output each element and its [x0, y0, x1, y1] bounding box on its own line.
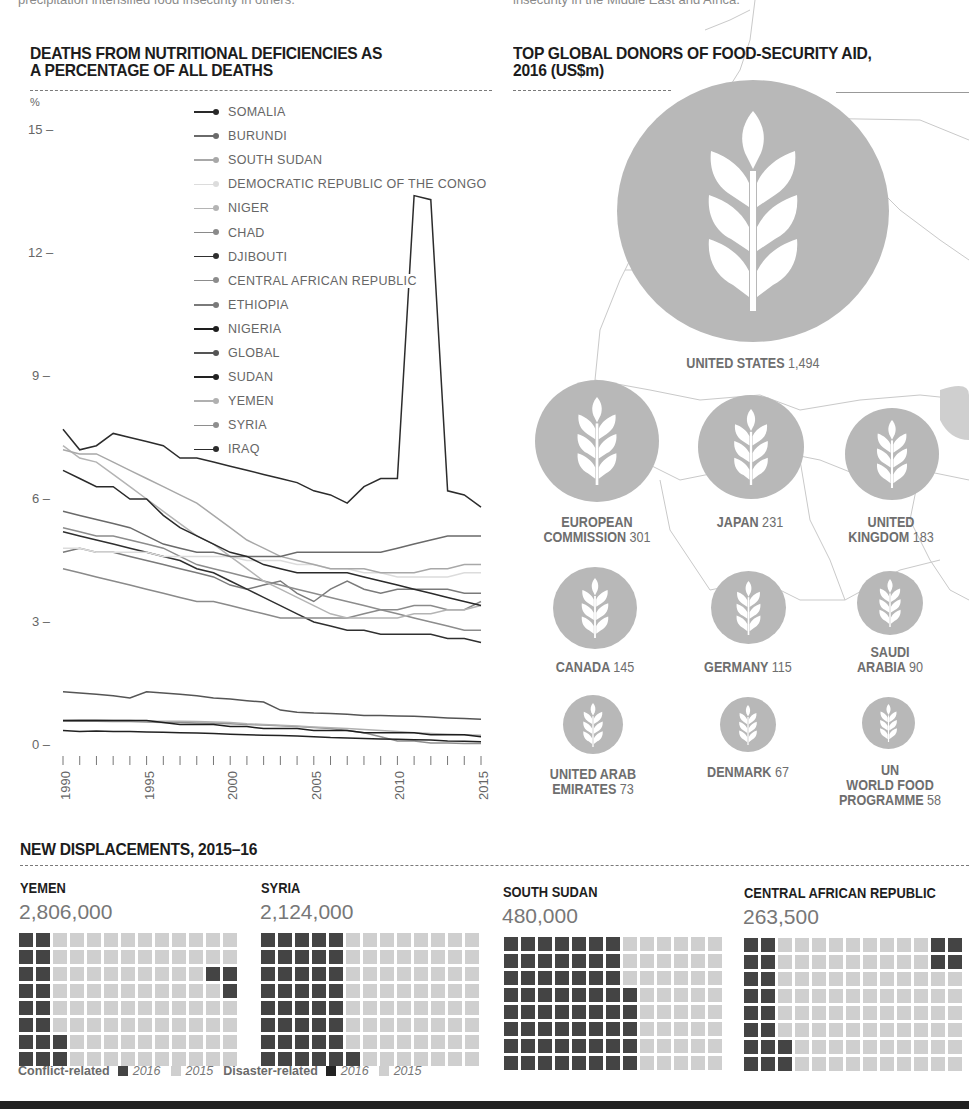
waffle-cell: [261, 950, 275, 964]
waffle-cell: [744, 972, 758, 986]
wheat-icon: [879, 704, 898, 742]
waffle-cell: [812, 938, 826, 952]
waffle-cell: [640, 954, 654, 968]
waffle-cell: [640, 1039, 654, 1053]
waffle-cell: [914, 972, 928, 986]
waffle-cell: [363, 967, 377, 981]
waffle-cell: [431, 1035, 445, 1049]
waffle-cell: [846, 989, 860, 1003]
displacement-country-syria: SYRIA: [261, 880, 300, 896]
waffle-cell: [121, 933, 135, 947]
series-line-niger: [63, 446, 481, 618]
legend-disaster-2016: 2016: [341, 1064, 369, 1078]
donor-label-canada: CANADA 145: [537, 660, 654, 675]
waffle-cell: [138, 984, 152, 998]
waffle-cell: [897, 989, 911, 1003]
wheat-icon: [738, 705, 758, 745]
waffle-cell: [931, 1057, 945, 1071]
legend-label: NIGERIA: [226, 322, 284, 336]
waffle-cell: [104, 933, 118, 947]
waffle-cell: [761, 972, 775, 986]
legend-swatch-2015-light: [171, 1066, 181, 1076]
waffle-cell: [640, 971, 654, 985]
waffle-cell: [53, 933, 67, 947]
waffle-cell: [948, 1057, 962, 1071]
waffle-cell: [380, 1001, 394, 1015]
legend-label: SOMALIA: [226, 105, 288, 119]
series-line-burundi: [63, 511, 481, 556]
waffle-cell: [795, 972, 809, 986]
waffle-cell: [914, 938, 928, 952]
waffle-cell: [674, 988, 688, 1002]
waffle-cell: [223, 967, 237, 981]
waffle-cell: [465, 1052, 479, 1066]
wheat-icon: [878, 579, 902, 627]
waffle-cell: [172, 984, 186, 998]
legend-label: CENTRAL AFRICAN REPUBLIC: [226, 274, 419, 288]
waffle-cell: [914, 989, 928, 1003]
waffle-cell: [121, 1001, 135, 1015]
waffle-cell: [846, 1023, 860, 1037]
waffle-cell: [606, 1039, 620, 1053]
waffle-cell: [172, 1018, 186, 1032]
waffle-cell: [538, 988, 552, 1002]
waffle-cell: [346, 984, 360, 998]
legend-item-central-african-republic: CENTRAL AFRICAN REPUBLIC: [194, 269, 488, 293]
waffle-cell: [19, 984, 33, 998]
legend-swatch-2015-grey: [379, 1066, 389, 1076]
legend-disaster-2015: 2015: [394, 1064, 422, 1078]
waffle-cell: [863, 972, 877, 986]
waffle-cell: [121, 1018, 135, 1032]
waffle-cell: [36, 1001, 50, 1015]
waffle-cell: [465, 1035, 479, 1049]
waffle-cell: [708, 1039, 722, 1053]
chart-legend: SOMALIABURUNDISOUTH SUDANDEMOCRATIC REPU…: [194, 100, 488, 461]
waffle-cell: [538, 971, 552, 985]
waffle-cell: [606, 988, 620, 1002]
waffle-cell: [278, 950, 292, 964]
waffle-cell: [465, 984, 479, 998]
series-line-djibouti: [63, 532, 481, 643]
donors-rule-right: [836, 92, 969, 93]
legend-item-somalia: SOMALIA: [194, 100, 488, 124]
waffle-cell: [691, 954, 705, 968]
donor-label-united-arab-emirates: UNITED ARAB EMIRATES 73: [527, 767, 658, 797]
legend-label: SYRIA: [226, 418, 269, 432]
waffle-cell: [312, 933, 326, 947]
waffle-cell: [223, 984, 237, 998]
waffle-cell: [172, 1001, 186, 1015]
waffle-cell: [812, 989, 826, 1003]
waffle-cell: [829, 989, 843, 1003]
waffle-cell: [465, 933, 479, 947]
waffle-cell: [261, 984, 275, 998]
legend-marker-icon: [194, 208, 216, 210]
intro-text-right: insecurity in the Middle East and Africa…: [513, 0, 740, 7]
waffle-cell: [640, 937, 654, 951]
waffle-cell: [778, 989, 792, 1003]
waffle-cell: [431, 950, 445, 964]
waffle-cell: [414, 967, 428, 981]
waffle-cell: [708, 937, 722, 951]
wheat-icon: [735, 581, 762, 635]
waffle-cell: [121, 984, 135, 998]
waffle-cell: [931, 1040, 945, 1054]
waffle-cell: [795, 955, 809, 969]
waffle-cell: [189, 967, 203, 981]
waffle-cell: [19, 950, 33, 964]
donors-rule-left: [513, 90, 671, 91]
waffle-cell: [278, 933, 292, 947]
waffle-cell: [36, 967, 50, 981]
waffle-cell: [897, 1006, 911, 1020]
donor-circle-un-world-food-programme: [862, 697, 915, 749]
waffle-cell: [138, 967, 152, 981]
waffle-cell: [948, 972, 962, 986]
waffle-cell: [538, 1056, 552, 1070]
donor-circle-japan: [698, 395, 804, 499]
waffle-cell: [589, 1022, 603, 1036]
legend-disaster-label: Disaster-related: [223, 1064, 318, 1078]
legend-conflict-label: Conflict-related: [18, 1064, 110, 1078]
waffle-cell: [691, 1039, 705, 1053]
waffle-cell: [708, 1022, 722, 1036]
x-label-2010: 2010: [392, 771, 407, 800]
x-label-1995: 1995: [142, 771, 157, 800]
